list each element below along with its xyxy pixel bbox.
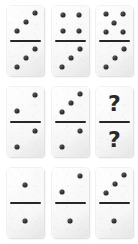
domino-half-top: ? <box>96 87 133 121</box>
pip <box>122 47 127 52</box>
pip <box>33 129 38 134</box>
pip <box>112 219 117 224</box>
domino-half-top <box>96 6 133 40</box>
domino-half-top <box>52 6 89 40</box>
pip <box>33 11 38 16</box>
question-mark-icon: ? <box>108 129 121 151</box>
pip <box>60 145 65 150</box>
domino-tile[interactable] <box>96 6 133 76</box>
pip <box>122 173 127 178</box>
pip <box>33 47 38 52</box>
domino-tile[interactable] <box>52 168 89 238</box>
domino-divider <box>99 40 130 42</box>
domino-half-top <box>96 168 133 202</box>
pip <box>113 56 118 61</box>
pip <box>78 129 83 134</box>
pip <box>78 92 83 97</box>
pip <box>104 191 109 196</box>
question-mark-icon: ? <box>108 93 121 115</box>
domino-half-bottom <box>96 42 133 76</box>
pip <box>78 47 83 52</box>
domino-tile-unknown[interactable]: ? ? <box>96 87 133 157</box>
domino-puzzle-grid: ? ? <box>0 0 138 244</box>
pip <box>61 29 66 34</box>
pip <box>78 174 83 179</box>
pip <box>15 65 20 70</box>
pip <box>23 183 28 188</box>
domino-half-bottom <box>52 204 89 238</box>
domino-half-bottom: ? <box>96 123 133 157</box>
pip <box>23 219 28 224</box>
pip <box>77 29 82 34</box>
domino-divider <box>10 40 41 42</box>
domino-tile[interactable] <box>52 6 89 76</box>
pip <box>69 101 74 106</box>
pip <box>61 13 66 18</box>
domino-tile[interactable] <box>7 168 44 238</box>
pip <box>68 219 73 224</box>
domino-half-bottom <box>96 204 133 238</box>
domino-half-bottom <box>7 204 44 238</box>
pip <box>15 29 20 34</box>
domino-divider <box>55 40 86 42</box>
domino-tile[interactable] <box>96 168 133 238</box>
domino-half-top <box>52 87 89 121</box>
domino-divider <box>55 121 86 123</box>
domino-divider <box>99 121 130 123</box>
pip <box>112 21 117 26</box>
domino-divider <box>99 202 130 204</box>
domino-half-top <box>52 168 89 202</box>
pip <box>104 65 109 70</box>
domino-tile[interactable] <box>52 87 89 157</box>
pip <box>15 145 20 150</box>
domino-half-bottom <box>7 42 44 76</box>
domino-divider <box>10 121 41 123</box>
pip <box>60 65 65 70</box>
pip <box>60 110 65 115</box>
pip <box>15 109 20 114</box>
pip <box>60 190 65 195</box>
domino-half-top <box>7 6 44 40</box>
domino-half-bottom <box>52 123 89 157</box>
pip <box>24 56 29 61</box>
domino-tile[interactable] <box>7 87 44 157</box>
pip <box>69 56 74 61</box>
domino-divider <box>55 202 86 204</box>
pip <box>24 20 29 25</box>
domino-half-bottom <box>7 123 44 157</box>
pip <box>104 12 109 17</box>
domino-tile[interactable] <box>7 6 44 76</box>
pip <box>77 13 82 18</box>
pip <box>121 12 126 17</box>
domino-half-top <box>7 87 44 121</box>
domino-half-bottom <box>52 42 89 76</box>
pip <box>104 30 109 35</box>
domino-half-top <box>7 168 44 202</box>
domino-divider <box>10 202 41 204</box>
pip <box>121 30 126 35</box>
pip <box>113 182 118 187</box>
pip <box>33 93 38 98</box>
